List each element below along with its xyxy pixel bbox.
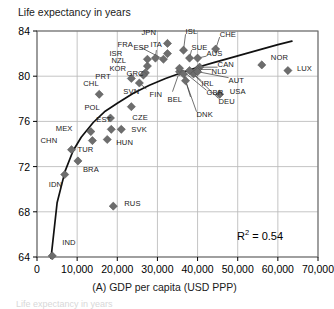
point-label-est: EST (96, 116, 111, 124)
r-squared-value: = 0.54 (249, 230, 283, 242)
data-point-tur[interactable] (88, 137, 96, 145)
point-label-kor: KOR (109, 65, 126, 73)
point-label-sue: SUE (192, 44, 208, 52)
data-point-est[interactable] (107, 125, 115, 133)
point-label-usa: USA (230, 88, 246, 96)
point-label-irl: IRL (202, 80, 214, 88)
point-label-ind: IND (62, 239, 75, 247)
plot-border (37, 31, 318, 257)
data-point-jpn[interactable] (163, 39, 171, 47)
point-label-isl: ISL (186, 28, 198, 36)
point-label-nor: NOR (271, 54, 288, 62)
point-label-idn: IDN (49, 181, 62, 189)
point-label-deu: DEU (219, 98, 235, 106)
point-label-fra: FRA (117, 41, 133, 49)
bottom-partial-caption: Life expectancy in years (16, 299, 113, 309)
x-tick-label: 10,000 (61, 263, 93, 275)
data-point-aus[interactable] (193, 54, 201, 62)
x-tick-label: 30,000 (141, 263, 173, 275)
data-point-bra[interactable] (74, 157, 82, 165)
point-label-lux: LUX (297, 65, 312, 73)
point-label-svk: SVK (131, 126, 147, 134)
point-label-chn: CHN (41, 137, 58, 145)
x-tick-label: 40,000 (182, 263, 214, 275)
y-tick-label: 68 (4, 206, 30, 218)
data-point-rus[interactable] (109, 202, 117, 210)
point-label-aus: AUS (207, 50, 223, 58)
x-tick-label: 50,000 (222, 263, 254, 275)
x-tick-label: 20,000 (101, 263, 133, 275)
data-point-isr[interactable] (143, 55, 151, 63)
data-point-chn[interactable] (67, 146, 75, 154)
data-point-dnk[interactable] (181, 77, 189, 85)
r-squared-symbol: R (237, 230, 245, 242)
point-label-mex: MEX (56, 125, 73, 133)
data-point-sue[interactable] (185, 54, 193, 62)
point-label-svn: SVN (123, 88, 139, 96)
x-tick-label: 60,000 (262, 263, 294, 275)
data-point-idn[interactable] (61, 170, 69, 178)
point-label-pol: POL (84, 104, 100, 112)
x-tick-label: 70,000 (302, 263, 334, 275)
data-point-lux[interactable] (284, 66, 292, 74)
data-point-chl[interactable] (95, 90, 103, 98)
y-tick-label: 84 (4, 25, 30, 37)
point-label-rus: RUS (124, 200, 140, 208)
r-squared-annotation: R2 = 0.54 (237, 228, 283, 242)
point-label-nld: NLD (212, 68, 228, 76)
point-label-esp: ESP (133, 44, 149, 52)
data-point-svk[interactable] (117, 125, 125, 133)
point-label-aut: AUT (229, 77, 245, 85)
data-point-esp[interactable] (151, 54, 159, 62)
point-label-chl: CHL (83, 80, 99, 88)
x-tick-label: 0 (34, 263, 40, 275)
point-label-bel: BEL (168, 96, 183, 104)
point-label-tur: TUR (77, 146, 93, 154)
data-point-ind[interactable] (48, 252, 56, 260)
point-label-dnk: DNK (197, 111, 213, 119)
point-label-ita: ITA (150, 41, 162, 49)
point-label-prt: PRT (95, 73, 110, 81)
point-label-bra: BRA (83, 166, 99, 174)
data-point-hun[interactable] (103, 135, 111, 143)
point-label-che: CHE (220, 31, 236, 39)
data-point-cze[interactable] (127, 103, 135, 111)
point-label-hun: HUN (116, 139, 133, 147)
y-tick-label: 80 (4, 70, 30, 82)
data-point-nor[interactable] (258, 61, 266, 69)
y-tick-label: 64 (4, 251, 30, 263)
point-label-jpn: JPN (141, 29, 156, 37)
point-label-isr: ISR (109, 50, 122, 58)
y-tick-label: 72 (4, 161, 30, 173)
point-label-grc: GRC (126, 70, 143, 78)
y-tick-label: 76 (4, 115, 30, 127)
x-axis-title: (A) GDP per capita (USD PPP) (0, 281, 329, 293)
point-label-fin: FIN (150, 91, 163, 99)
data-point-isl[interactable] (179, 46, 187, 54)
point-label-cze: CZE (132, 114, 148, 122)
